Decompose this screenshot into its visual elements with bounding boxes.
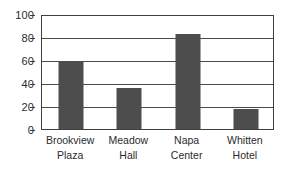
y-tick-mark bbox=[30, 38, 35, 39]
x-label-line1: Brookview bbox=[46, 134, 94, 146]
bar-chart: 100 80 60 40 20 0 bbox=[0, 0, 292, 169]
bar-slot bbox=[100, 16, 158, 129]
y-axis: 100 80 60 40 20 0 bbox=[6, 15, 34, 130]
bar-slot bbox=[159, 16, 217, 129]
plot-area bbox=[41, 15, 274, 130]
y-tick-mark bbox=[30, 61, 35, 62]
x-label-line1: Meadow bbox=[109, 134, 149, 146]
bar-whitten-hotel bbox=[233, 109, 258, 129]
y-tick-mark bbox=[30, 130, 35, 131]
bar-meadow-hall bbox=[117, 88, 142, 129]
x-label-line2: Hotel bbox=[216, 148, 274, 163]
x-label-line1: Whitten bbox=[227, 134, 263, 146]
bar-brookview-plaza bbox=[59, 61, 84, 129]
bar-slot bbox=[217, 16, 275, 129]
x-label-brookview-plaza: Brookview Plaza bbox=[41, 133, 99, 163]
x-label-whitten-hotel: Whitten Hotel bbox=[216, 133, 274, 163]
y-tick-mark bbox=[30, 15, 35, 16]
bar-slot bbox=[42, 16, 100, 129]
x-axis: Brookview Plaza Meadow Hall Napa Center … bbox=[41, 133, 274, 167]
y-tick-mark bbox=[30, 84, 35, 85]
x-label-line2: Center bbox=[158, 148, 216, 163]
bar-napa-center bbox=[175, 34, 200, 129]
x-label-line2: Hall bbox=[99, 148, 157, 163]
x-label-meadow-hall: Meadow Hall bbox=[99, 133, 157, 163]
x-label-line1: Napa bbox=[174, 134, 199, 146]
y-tick-mark bbox=[30, 107, 35, 108]
bars-layer bbox=[42, 16, 273, 129]
x-label-napa-center: Napa Center bbox=[158, 133, 216, 163]
x-label-line2: Plaza bbox=[41, 148, 99, 163]
